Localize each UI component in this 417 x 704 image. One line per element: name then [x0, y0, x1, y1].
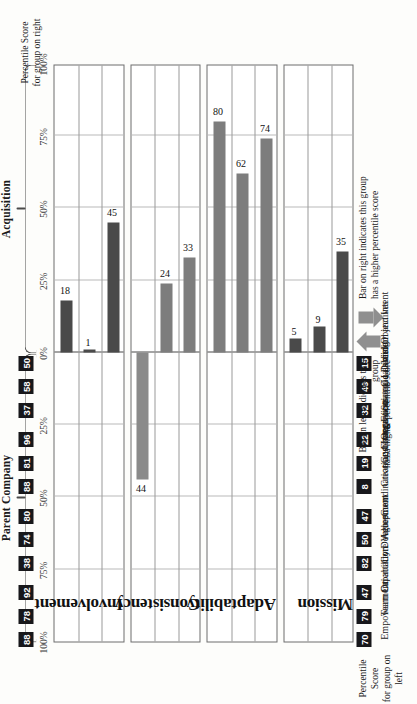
- bar: [236, 173, 248, 352]
- gridline: [54, 423, 123, 424]
- row-separator: [154, 65, 155, 641]
- bar-value-label: 80: [212, 105, 222, 116]
- axis-tick: 0%: [38, 347, 48, 360]
- gridline: [131, 207, 200, 208]
- figure-body: Parent CompanyAcquisition 100%75%50%25%0…: [0, 0, 417, 704]
- percentile-badge-left: 50: [356, 532, 371, 547]
- bar-value-label: 24: [159, 267, 169, 278]
- legend-right: Percentile Score for group on right: [18, 4, 42, 100]
- bar-value-label: 33: [183, 241, 193, 252]
- axis-tick: 50%: [38, 489, 48, 506]
- gridline: [284, 496, 353, 497]
- gridline: [207, 568, 276, 569]
- gridline: [284, 568, 353, 569]
- row-separator: [307, 65, 308, 641]
- bar: [260, 138, 272, 352]
- gridline: [131, 134, 200, 135]
- percentile-badge-right: 50: [18, 355, 33, 370]
- legend-left-caption: Percentile Score for group on left: [356, 652, 404, 704]
- row-separator: [331, 65, 332, 641]
- axis-tick: 100%: [38, 631, 48, 653]
- bar: [60, 300, 72, 352]
- row-separator: [78, 65, 79, 641]
- legend-down-caption: Bar on left indicates this group has a h…: [356, 359, 392, 474]
- legend-left: Percentile Score for group on left: [356, 652, 404, 704]
- group-label: Acquisition: [0, 64, 11, 353]
- percentile-badge-left: 70: [356, 632, 371, 647]
- panel-consistency: Consistency442433: [130, 64, 201, 642]
- bar-value-label: 18: [59, 284, 69, 295]
- percentile-badge-left: 82: [356, 555, 371, 570]
- panel-mission: Mission5935: [283, 64, 354, 642]
- gridline: [207, 423, 276, 424]
- panel-title: Adaptability: [205, 616, 278, 638]
- row-separator: [101, 65, 102, 641]
- gridline: [284, 423, 353, 424]
- legend-up-caption: Bar on right indicates this group has a …: [356, 174, 380, 299]
- bar: [289, 338, 301, 352]
- percentile-badge-right: 74: [18, 532, 33, 547]
- gridline: [54, 568, 123, 569]
- row-separator: [231, 65, 232, 641]
- axis-tick: 25%: [38, 272, 48, 289]
- percentile-badge-right: 88: [18, 632, 33, 647]
- chart-figure: Parent CompanyAcquisition 100%75%50%25%0…: [0, 0, 417, 704]
- arrow-up-icon: [356, 331, 382, 351]
- percentile-badge-right: 58: [18, 379, 33, 394]
- gridline: [54, 496, 123, 497]
- rotated-canvas: Parent CompanyAcquisition 100%75%50%25%0…: [0, 0, 417, 704]
- gridline: [131, 568, 200, 569]
- bar: [336, 251, 348, 352]
- percentile-badge-right: 80: [18, 508, 33, 523]
- axis-tick: 50%: [38, 200, 48, 217]
- bar-value-label: 1: [85, 336, 90, 347]
- bar-value-label: 35: [336, 235, 346, 246]
- bar-value-label: 45: [106, 206, 116, 217]
- percentile-badge-right: 78: [18, 608, 33, 623]
- percentile-badge-left: 8: [356, 479, 371, 494]
- panel-title: Involvement: [52, 616, 125, 638]
- percentile-badge-right: 88: [18, 479, 33, 494]
- percentile-badge-right: 96: [18, 432, 33, 447]
- bar: [213, 121, 225, 352]
- row-separator: [178, 65, 179, 641]
- percentile-badges-right: 887892387480888196375850: [18, 0, 35, 704]
- direction-arrows: [356, 307, 382, 352]
- legend-direction-key: Bar on left indicates this group has a h…: [356, 174, 392, 474]
- bar: [160, 283, 172, 352]
- group-label: Parent Company: [0, 353, 11, 642]
- legend-right-caption: Percentile Score for group on right: [18, 4, 42, 100]
- gridline: [54, 134, 123, 135]
- panel-involvement: Involvement18145: [53, 64, 124, 642]
- gridline: [131, 496, 200, 497]
- percentile-badge-left: 47: [356, 508, 371, 523]
- panel-title: Mission: [282, 616, 355, 638]
- percentile-badge-left: 79: [356, 608, 371, 623]
- axis-tick: 75%: [38, 561, 48, 578]
- percentile-badge-right: 37: [18, 402, 33, 417]
- bar-value-label: 62: [236, 157, 246, 168]
- panel-title: Consistency: [129, 616, 202, 638]
- gridline: [284, 207, 353, 208]
- bar: [136, 352, 148, 479]
- bar: [183, 257, 195, 352]
- bar-value-label: 5: [291, 325, 296, 336]
- panel-container: Involvement18145Consistency442433Adaptab…: [53, 0, 353, 704]
- panel-adaptability: Adaptability806274: [206, 64, 277, 642]
- percentile-badge-left: 47: [356, 585, 371, 600]
- percentile-badge-right: 81: [18, 455, 33, 470]
- arrow-down-icon: [356, 307, 382, 327]
- percentile-badge-right: 92: [18, 585, 33, 600]
- percentile-badge-right: 38: [18, 555, 33, 570]
- row-separator: [254, 65, 255, 641]
- gridline: [284, 134, 353, 135]
- axis-tick: 75%: [38, 128, 48, 145]
- bar: [83, 349, 95, 352]
- bar-value-label: 74: [259, 123, 269, 134]
- bar-value-label: 44: [136, 483, 146, 494]
- bar-value-label: 9: [315, 313, 320, 324]
- gridline: [207, 496, 276, 497]
- bar: [107, 222, 119, 352]
- bar: [313, 326, 325, 352]
- axis-tick: 25%: [38, 417, 48, 434]
